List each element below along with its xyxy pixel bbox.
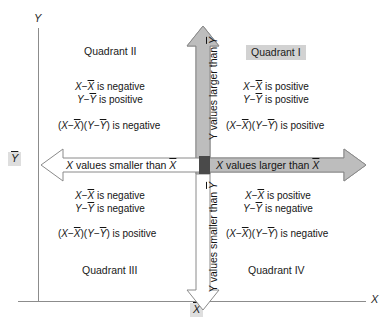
y-mean-marker: Y <box>8 152 21 166</box>
y-values-smaller-label: Y values smaller than Y <box>207 182 219 292</box>
x-left-text: values smaller than <box>76 159 166 171</box>
quadrant-1-conditions: X−X is positive Y−Y is positive <box>243 80 309 106</box>
x-left-mean: X <box>169 159 176 171</box>
quadrant-2-conditions: X−X is negative Y−Y is positive <box>75 80 145 106</box>
quadrant-4-product: (X−X)(Y−Y) is negative <box>226 228 328 239</box>
quadrant-4-name: Quadrant IV <box>248 264 305 276</box>
quadrant-2-x-condition: X−X is negative <box>75 80 145 93</box>
quadrant-1-name: Quadrant I <box>246 45 306 60</box>
quadrant-3-name: Quadrant III <box>82 264 137 276</box>
y-axis-line <box>38 28 39 302</box>
correlation-quadrant-diagram: Y X Y X Y values larger than Y Y values … <box>0 0 390 330</box>
quadrant-3-x-condition: X−X is negative <box>75 189 145 202</box>
y-axis-label: Y <box>34 12 41 24</box>
quadrant-3-y-condition: Y−Y is negative <box>75 202 145 215</box>
y-mean-text: Y <box>11 152 18 164</box>
quadrant-1-x-condition: X−X is positive <box>243 80 309 93</box>
quadrant-1-y-condition: Y−Y is positive <box>243 93 309 106</box>
quadrant-4-y-condition: Y−Y is negative <box>243 202 313 215</box>
x-axis-label: X <box>371 293 378 305</box>
quadrant-4-conditions: X−X is positive Y−Y is negative <box>243 189 313 215</box>
quadrant-3-conditions: X−X is negative Y−Y is negative <box>75 189 145 215</box>
x-right-var: X <box>216 159 223 171</box>
quadrant-1-product: (X−X)(Y−Y) is positive <box>226 120 324 131</box>
x-left-var: X <box>66 159 73 171</box>
quadrant-2-name: Quadrant II <box>84 45 137 57</box>
x-right-text: values larger than <box>226 159 309 171</box>
y-values-larger-label: Y values larger than Y <box>207 37 219 140</box>
x-values-larger-label: X values larger than X <box>216 159 319 171</box>
quadrant-2-y-condition: Y−Y is positive <box>75 93 145 106</box>
x-right-mean: X <box>312 159 319 171</box>
x-values-smaller-label: X values smaller than X <box>66 159 176 171</box>
quadrant-3-product: (X−X)(Y−Y) is positive <box>58 228 156 239</box>
axes-intersection-marker <box>199 156 210 174</box>
quadrant-4-x-condition: X−X is positive <box>243 189 313 202</box>
quadrant-2-product: (X−X)(Y−Y) is negative <box>58 120 160 131</box>
